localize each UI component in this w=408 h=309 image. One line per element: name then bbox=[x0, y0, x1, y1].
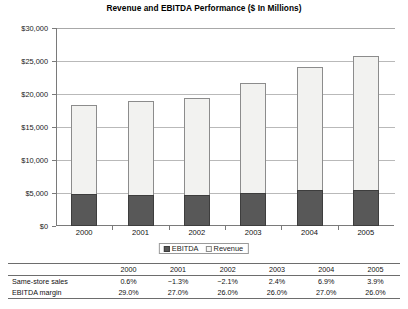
legend-label: Revenue bbox=[214, 245, 244, 252]
bar-segment-ebitda bbox=[184, 195, 210, 226]
table-cell: 29.0% bbox=[104, 287, 153, 299]
bar-column bbox=[184, 28, 210, 226]
table-corner-cell bbox=[8, 264, 104, 276]
table-row-label: Same-store sales bbox=[8, 276, 104, 288]
table-cell: −1.3% bbox=[153, 276, 203, 288]
x-axis-tick-mark bbox=[112, 226, 113, 230]
bar-stack bbox=[297, 67, 323, 226]
bar-column bbox=[128, 28, 154, 226]
y-axis-tick-mark bbox=[52, 94, 56, 95]
table-header: 200020012002200320042005 bbox=[8, 264, 400, 276]
legend-item-ebitda: EBITDA bbox=[164, 245, 199, 252]
y-axis-tick-label: $20,000 bbox=[21, 90, 48, 99]
legend-swatch-revenue bbox=[206, 246, 212, 252]
bar-column bbox=[297, 28, 323, 226]
bar-segment-ebitda bbox=[297, 190, 323, 226]
table-column-header: 2000 bbox=[104, 264, 153, 276]
y-axis-tick-mark bbox=[52, 127, 56, 128]
y-axis-tick-mark bbox=[52, 193, 56, 194]
table-cell: −2.1% bbox=[203, 276, 253, 288]
table-column-header: 2004 bbox=[302, 264, 351, 276]
y-axis-tick-mark bbox=[52, 28, 56, 29]
bar-segment-ebitda bbox=[71, 194, 97, 226]
x-axis-tick-label: 2005 bbox=[357, 228, 374, 237]
x-axis-tick-mark bbox=[169, 226, 170, 230]
x-axis-labels: 200020012002200320042005 bbox=[56, 228, 394, 242]
bar-column bbox=[240, 28, 266, 226]
table-column-header: 2005 bbox=[351, 264, 400, 276]
table-cell: 0.6% bbox=[104, 276, 153, 288]
x-axis-tick-mark bbox=[338, 226, 339, 230]
table-cell: 26.0% bbox=[203, 287, 253, 299]
bar-stack bbox=[71, 105, 97, 226]
y-axis-tick-mark bbox=[52, 61, 56, 62]
x-axis-tick-label: 2001 bbox=[132, 228, 149, 237]
bar-segment-ebitda bbox=[128, 195, 154, 226]
x-axis-tick-label: 2004 bbox=[301, 228, 318, 237]
y-axis-tick-label: $15,000 bbox=[21, 123, 48, 132]
y-axis-tick-mark bbox=[52, 226, 56, 227]
page-title: Revenue and EBITDA Performance ($ In Mil… bbox=[0, 3, 408, 13]
y-axis-tick-label: $0 bbox=[40, 222, 48, 231]
table-cell: 2.4% bbox=[252, 276, 301, 288]
chart-legend: EBITDARevenue bbox=[159, 243, 249, 254]
y-axis-tick-mark bbox=[52, 160, 56, 161]
table-cell: 26.0% bbox=[351, 287, 400, 299]
bar-series-container bbox=[56, 28, 394, 226]
y-axis-tick-label: $25,000 bbox=[21, 57, 48, 66]
table-cell: 27.0% bbox=[153, 287, 203, 299]
bar-column bbox=[71, 28, 97, 226]
table-cell: 27.0% bbox=[302, 287, 351, 299]
table-cell: 26.0% bbox=[252, 287, 301, 299]
bar-stack bbox=[353, 56, 379, 226]
table-body: Same-store sales0.6%−1.3%−2.1%2.4%6.9%3.… bbox=[8, 276, 400, 299]
table-row: EBITDA margin29.0%27.0%26.0%26.0%27.0%26… bbox=[8, 287, 400, 299]
bar-segment-ebitda bbox=[353, 190, 379, 226]
legend-label: EBITDA bbox=[172, 245, 199, 252]
x-axis-tick-label: 2002 bbox=[188, 228, 205, 237]
y-axis-tick-label: $30,000 bbox=[21, 24, 48, 33]
data-table: 200020012002200320042005 Same-store sale… bbox=[8, 263, 400, 299]
x-axis-tick-label: 2000 bbox=[76, 228, 93, 237]
bar-segment-ebitda bbox=[240, 193, 266, 226]
y-axis-tick-label: $5,000 bbox=[25, 189, 48, 198]
bar-stack bbox=[184, 98, 210, 226]
table-cell: 6.9% bbox=[302, 276, 351, 288]
table-header-row: 200020012002200320042005 bbox=[8, 264, 400, 276]
bar-stack bbox=[240, 83, 266, 226]
x-axis-tick-mark bbox=[281, 226, 282, 230]
chart-page: Revenue and EBITDA Performance ($ In Mil… bbox=[0, 0, 408, 309]
table-column-header: 2001 bbox=[153, 264, 203, 276]
table-row-label: EBITDA margin bbox=[8, 287, 104, 299]
y-axis-labels: $0$5,000$10,000$15,000$20,000$25,000$30,… bbox=[0, 28, 52, 226]
bar-column bbox=[353, 28, 379, 226]
table-column-header: 2003 bbox=[252, 264, 301, 276]
x-axis-tick-label: 2003 bbox=[245, 228, 262, 237]
table-column-header: 2002 bbox=[203, 264, 253, 276]
legend-swatch-ebitda bbox=[164, 246, 170, 252]
bar-stack bbox=[128, 101, 154, 226]
legend-item-revenue: Revenue bbox=[206, 245, 244, 252]
table-row: Same-store sales0.6%−1.3%−2.1%2.4%6.9%3.… bbox=[8, 276, 400, 288]
x-axis-tick-mark bbox=[225, 226, 226, 230]
table-cell: 3.9% bbox=[351, 276, 400, 288]
y-axis-tick-label: $10,000 bbox=[21, 156, 48, 165]
